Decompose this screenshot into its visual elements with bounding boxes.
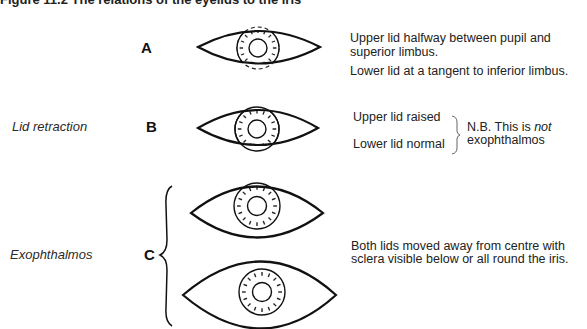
small-bracket-icon	[452, 116, 460, 154]
note-b-lower: Lower lid normal	[353, 137, 445, 151]
note-a-upper-line1: Upper lid halfway between pupil and	[350, 31, 551, 45]
eye-b	[198, 107, 318, 151]
note-b-nb-line2: exophthalmos	[467, 133, 545, 147]
note-a-upper-line2: superior limbus.	[350, 45, 438, 59]
eye-diagrams	[0, 0, 587, 329]
note-b-upper: Upper lid raised	[353, 110, 441, 124]
eye-c-lower	[183, 262, 336, 329]
note-c-line2: sclera visible below or all round the ir…	[351, 252, 568, 266]
eye-c-upper	[191, 183, 323, 238]
note-b-nb-emph: not	[534, 120, 551, 134]
note-b-nb-prefix: N.B. This is	[467, 120, 534, 134]
note-a-lower: Lower lid at a tangent to inferior limbu…	[350, 64, 568, 78]
note-c-line1: Both lids moved away from centre with	[351, 239, 565, 253]
note-b-nb: N.B. This is not	[467, 120, 552, 134]
eye-a	[198, 27, 320, 69]
curly-bracket-icon	[160, 186, 172, 326]
